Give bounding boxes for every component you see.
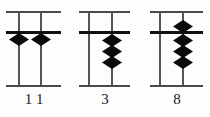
frame-bottom-bar (79, 85, 130, 87)
abacus-2-value-label: 3 (79, 92, 131, 107)
rod-2 (40, 12, 42, 86)
reckoning-bar (6, 31, 61, 34)
earth-bead (31, 33, 51, 46)
frame-top-bar (6, 11, 61, 13)
earth-bead (102, 56, 122, 69)
earth-bead (9, 33, 29, 46)
frame-bottom-bar (6, 85, 61, 87)
frame-top-bar (150, 11, 203, 13)
rod-1 (18, 12, 20, 86)
reckoning-bar (150, 31, 203, 34)
reckoning-bar (79, 31, 130, 34)
frame-bottom-bar (150, 85, 203, 87)
abacus-figure: 1 1 3 8 (0, 0, 210, 117)
abacus-3-value-label: 8 (150, 92, 204, 107)
rod-1 (159, 12, 161, 86)
abacus-1-value-label: 1 1 (6, 92, 62, 107)
earth-bead (173, 56, 193, 69)
frame-top-bar (79, 11, 130, 13)
rod-1 (88, 12, 90, 86)
